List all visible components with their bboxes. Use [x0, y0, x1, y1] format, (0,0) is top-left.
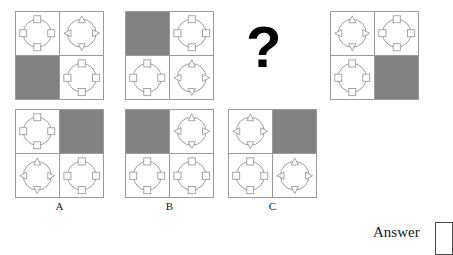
cell-bottom-right [60, 154, 104, 198]
cell-top-right [170, 110, 214, 154]
panel-cell-grid [126, 110, 213, 197]
answer-input-box[interactable] [435, 222, 453, 255]
cell-top-left-shaded [126, 12, 170, 56]
cell-bottom-right [170, 154, 214, 198]
panel-cell-grid [16, 110, 103, 197]
cell-bottom-left [331, 56, 375, 100]
cell-bottom-right [170, 56, 214, 100]
circle-with-triangle-markers [331, 12, 374, 55]
circle-with-triangle-markers [170, 110, 214, 153]
option-b[interactable] [125, 109, 214, 198]
cell-top-left [16, 12, 60, 56]
cell-top-left [229, 110, 273, 154]
cell-bottom-left [229, 154, 273, 198]
cell-bottom-left [126, 56, 170, 100]
circle-with-square-markers [170, 154, 214, 198]
panel-cell-grid [126, 12, 213, 99]
cell-bottom-right-shaded [375, 56, 419, 100]
sequence-panel-2 [125, 11, 214, 100]
cell-bottom-right [60, 56, 104, 100]
circle-with-triangle-markers [16, 154, 59, 198]
option-c-label: C [228, 200, 317, 212]
circle-with-triangle-markers [170, 56, 214, 100]
circle-with-square-markers [60, 56, 104, 100]
circle-with-square-markers [16, 12, 59, 55]
circle-with-square-markers [331, 56, 374, 100]
cell-top-right-shaded [60, 110, 104, 154]
panel-cell-grid [229, 110, 316, 197]
cell-bottom-left [16, 154, 60, 198]
question-mark: ? [246, 18, 281, 76]
cell-top-left [331, 12, 375, 56]
circle-with-triangle-markers [273, 154, 317, 198]
cell-top-right [60, 12, 104, 56]
panel-cell-grid [331, 12, 418, 99]
option-c[interactable] [228, 109, 317, 198]
cell-top-left-shaded [126, 110, 170, 154]
cell-bottom-right [273, 154, 317, 198]
cell-top-right [170, 12, 214, 56]
cell-bottom-left [126, 154, 170, 198]
option-b-label: B [125, 200, 214, 212]
circle-with-triangle-markers [229, 110, 272, 153]
answer-label: Answer [373, 224, 420, 241]
sequence-panel-4 [330, 11, 419, 100]
cell-top-left [16, 110, 60, 154]
circle-with-square-markers [170, 12, 214, 55]
option-a-label: A [15, 200, 104, 212]
circle-with-square-markers [126, 56, 169, 100]
circle-with-square-markers [16, 110, 59, 153]
sequence-panel-1 [15, 11, 104, 100]
cell-bottom-left-shaded [16, 56, 60, 100]
circle-with-square-markers [229, 154, 272, 198]
puzzle-canvas: ? A B C [0, 0, 453, 255]
circle-with-square-markers [60, 154, 104, 198]
cell-top-right [375, 12, 419, 56]
cell-top-right-shaded [273, 110, 317, 154]
circle-with-square-markers [126, 154, 169, 198]
panel-cell-grid [16, 12, 103, 99]
option-a[interactable] [15, 109, 104, 198]
circle-with-triangle-markers [60, 12, 104, 55]
circle-with-square-markers [375, 12, 419, 55]
